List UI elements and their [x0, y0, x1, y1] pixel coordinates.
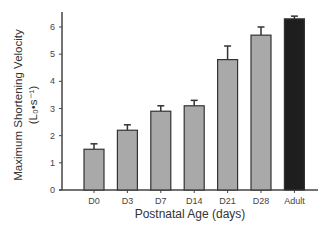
y-axis-units: (L₀•s⁻¹) — [26, 5, 41, 205]
y-tick-label: 1 — [50, 158, 55, 168]
bar-adult — [284, 19, 304, 190]
x-tick-label: D7 — [155, 196, 167, 206]
y-tick-label: 0 — [50, 185, 55, 195]
bar-d7 — [151, 111, 171, 190]
x-tick-label: D28 — [253, 196, 270, 206]
bar-d0 — [84, 149, 104, 190]
bar-d21 — [218, 60, 238, 190]
bar-d28 — [251, 35, 271, 190]
y-tick-label: 6 — [50, 22, 55, 32]
x-axis-label: Postnatal Age (days) — [62, 207, 318, 221]
x-tick-label: Adult — [284, 196, 305, 206]
x-tick-label: D14 — [186, 196, 203, 206]
y-axis-title: Maximum Shortening Velocity — [11, 5, 26, 205]
y-axis-label: Maximum Shortening Velocity (L₀•s⁻¹) — [11, 5, 45, 205]
bar-chart: 0123456D0D3D7D14D21D28Adult — [0, 0, 328, 241]
x-tick-label: D3 — [122, 196, 134, 206]
x-tick-label: D0 — [88, 196, 100, 206]
bar-d3 — [117, 130, 137, 190]
y-tick-label: 4 — [50, 76, 55, 86]
x-tick-label: D21 — [219, 196, 236, 206]
bar-d14 — [184, 106, 204, 190]
y-tick-label: 2 — [50, 131, 55, 141]
y-tick-label: 3 — [50, 104, 55, 114]
y-tick-label: 5 — [50, 49, 55, 59]
